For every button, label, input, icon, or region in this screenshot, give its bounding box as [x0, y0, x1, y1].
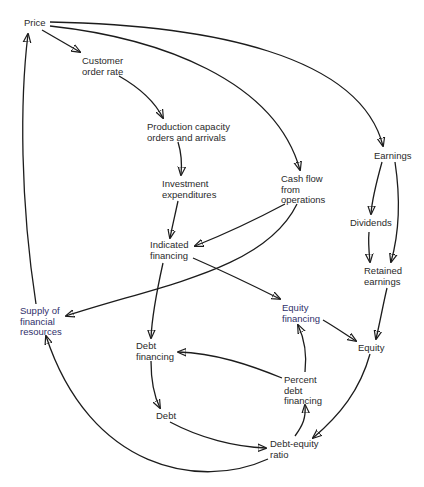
node-equity-financing: Equity financing: [282, 303, 320, 324]
node-debt-equity-ratio: Debt-equity ratio: [270, 439, 319, 460]
edge-equity-financing-to-equity: [323, 320, 356, 341]
node-debt-financing: Debt financing: [136, 341, 174, 362]
edge-earnings-to-retained-earnings: [391, 162, 398, 262]
node-debt: Debt: [156, 411, 176, 422]
edge-indicated-to-debt-financing: [151, 263, 163, 338]
edge-earnings-to-dividends: [371, 162, 382, 214]
edge-percent-debt-to-equity-financing: [298, 325, 306, 372]
node-earnings: Earnings: [374, 151, 412, 162]
node-cash-flow: Cash flow from operations: [281, 174, 325, 206]
edge-price-to-customer-order-rate: [42, 30, 80, 52]
edge-customer-order-rate-to-production-capacity: [119, 76, 163, 118]
node-price: Price: [24, 18, 46, 29]
edge-indicated-to-equity-financing: [193, 258, 280, 299]
node-production-capacity: Production capacity orders and arrivals: [147, 122, 230, 143]
edge-dividends-to-retained-earnings: [369, 232, 370, 262]
diagram-edges: [0, 0, 424, 487]
edge-production-capacity-to-investment: [178, 142, 182, 175]
node-supply-financial-resources: Supply of financial resources: [20, 306, 62, 338]
edge-debt-to-debt-equity-ratio: [170, 422, 266, 448]
edge-investment-to-indicated-financing: [170, 201, 178, 238]
node-investment-expenditures: Investment expenditures: [162, 179, 216, 200]
edge-retained-earnings-to-equity: [376, 288, 387, 339]
edge-supply-to-price: [23, 34, 36, 304]
edge-price-to-cash-flow: [50, 26, 300, 170]
node-retained-earnings: Retained earnings: [364, 266, 402, 287]
node-equity: Equity: [358, 343, 384, 354]
edge-percent-debt-to-debt-financing: [178, 352, 282, 378]
edge-cash-flow-to-indicated-financing: [195, 204, 285, 246]
node-customer-order-rate: Customer order rate: [82, 56, 123, 77]
edge-debt-financing-to-debt: [151, 361, 160, 408]
node-percent-debt-financing: Percent debt financing: [284, 375, 322, 407]
node-dividends: Dividends: [350, 218, 392, 229]
edge-debt-equity-ratio-to-percent-debt: [295, 405, 305, 436]
node-indicated-financing: Indicated financing: [150, 240, 189, 261]
causal-loop-diagram: Price Customer order rate Production cap…: [0, 0, 424, 487]
